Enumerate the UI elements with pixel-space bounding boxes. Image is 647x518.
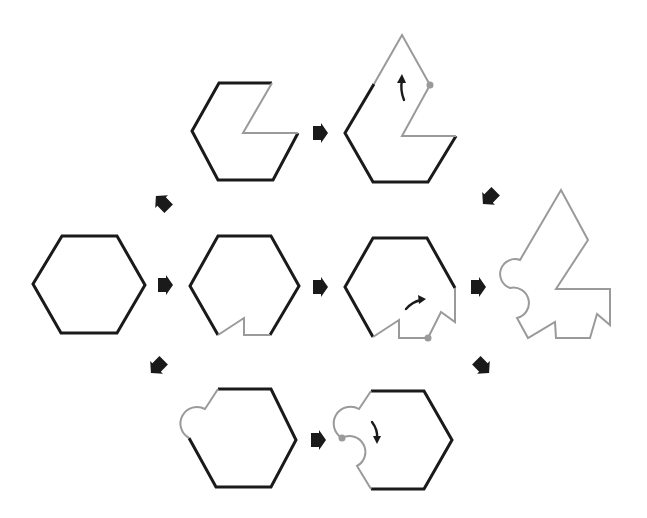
- bottom-step1-shape: [180, 389, 296, 487]
- arrow-bottom1-to-bottom2: [311, 430, 326, 450]
- pivot-dot: [427, 82, 434, 89]
- top-step2-shape: [345, 35, 456, 182]
- pivot-dot: [425, 335, 432, 342]
- arrow-top1-to-top2: [313, 123, 328, 143]
- arrow-bottom2-to-final: [470, 354, 495, 379]
- start-hexagon: [33, 236, 145, 333]
- mid-step2-shape: [345, 238, 455, 342]
- arrow-mid1-to-mid2: [313, 277, 328, 297]
- arrow-mid2-to-final: [471, 277, 486, 297]
- arrow-start-to-mid: [158, 275, 173, 295]
- mid-step1-shape: [190, 236, 299, 335]
- arrow-top2-to-final: [477, 185, 502, 210]
- diagram-canvas: [0, 0, 647, 518]
- arrow-start-to-bottom: [145, 354, 170, 379]
- rotation-arrow-icon: [406, 295, 426, 309]
- pivot-dot: [339, 435, 346, 442]
- arrow-start-to-top: [150, 190, 175, 215]
- bottom-step2-shape: [334, 391, 452, 489]
- top-step1-shape: [192, 83, 298, 180]
- rotation-arrow-icon: [372, 422, 381, 444]
- final-tile-shape: [500, 190, 610, 338]
- rotation-arrow-icon: [397, 74, 406, 100]
